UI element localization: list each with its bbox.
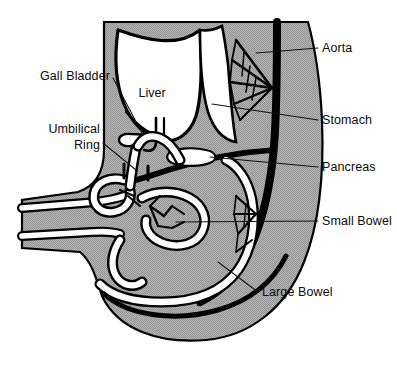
label-small-bowel: Small Bowel [322, 214, 392, 228]
anatomy-diagram-canvas: Liver Gall Bladder Umbilical Ring Aorta … [0, 0, 397, 366]
label-gall-bladder: Gall Bladder [40, 69, 110, 83]
label-aorta: Aorta [322, 41, 352, 55]
label-stomach: Stomach [322, 113, 372, 127]
label-umbilical-ring-line1: Umbilical [48, 122, 100, 136]
anatomy-figure: Liver Gall Bladder Umbilical Ring Aorta … [0, 0, 397, 366]
label-liver: Liver [138, 86, 165, 100]
label-umbilical-ring-line2: Ring [74, 138, 100, 152]
label-large-bowel: Large Bowel [262, 285, 333, 299]
label-pancreas: Pancreas [322, 160, 376, 174]
